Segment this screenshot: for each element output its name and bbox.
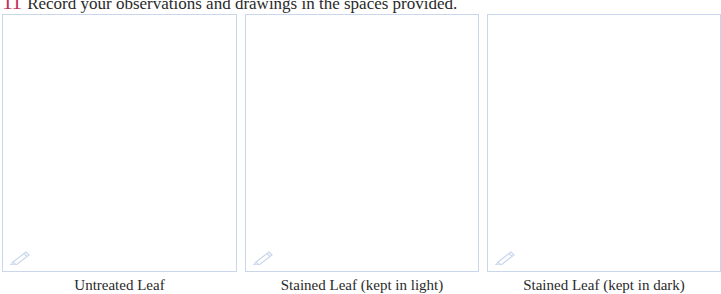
step-number: 11: [2, 0, 21, 14]
drawing-area-untreated[interactable]: [2, 14, 237, 272]
pencil-icon: [9, 249, 31, 265]
caption-light: Stained Leaf (kept in light): [245, 276, 479, 294]
drawing-area-dark[interactable]: [487, 14, 721, 272]
pencil-icon: [252, 249, 274, 265]
instruction-text: Record your observations and drawings in…: [27, 0, 457, 13]
drawing-area-light[interactable]: [245, 14, 479, 272]
caption-untreated: Untreated Leaf: [2, 276, 237, 294]
instruction-heading: 11Record your observations and drawings …: [2, 0, 457, 12]
pencil-icon: [494, 249, 516, 265]
caption-dark: Stained Leaf (kept in dark): [487, 276, 721, 294]
